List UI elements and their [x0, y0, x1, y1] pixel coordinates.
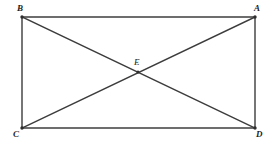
vertex-label-c: C — [13, 130, 19, 139]
vertex-dot-a — [253, 15, 256, 18]
vertex-dot-e — [136, 70, 139, 73]
vertex-label-d: D — [256, 130, 263, 139]
vertex-label-a: A — [254, 4, 260, 13]
geometry-figure: B A C D E — [0, 0, 276, 147]
vertex-dot-c — [20, 126, 23, 129]
rectangle-diagonals-drawing — [0, 0, 276, 147]
vertex-dot-b — [20, 15, 23, 18]
vertex-label-b: B — [17, 4, 23, 13]
vertex-label-e: E — [134, 58, 140, 67]
